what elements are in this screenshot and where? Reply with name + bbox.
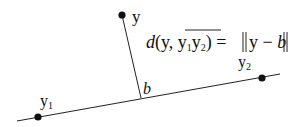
formula-text: d(y, y1y2) = [146,32,226,53]
label-b: b [143,80,151,97]
label-y1: y1 [40,92,53,111]
distance-formula: d(y, y1y2) = y − b [146,30,287,53]
distance-diagram: y y1 y2 b d(y, y1y2) = y − b [0,0,301,127]
point-y-dot [118,11,125,18]
label-y: y [132,7,141,26]
label-y2: y2 [238,53,251,72]
norm-body: y − b [249,32,286,52]
point-y1-dot [34,113,41,120]
perpendicular-segment [122,15,141,98]
point-y2-dot [258,74,265,81]
